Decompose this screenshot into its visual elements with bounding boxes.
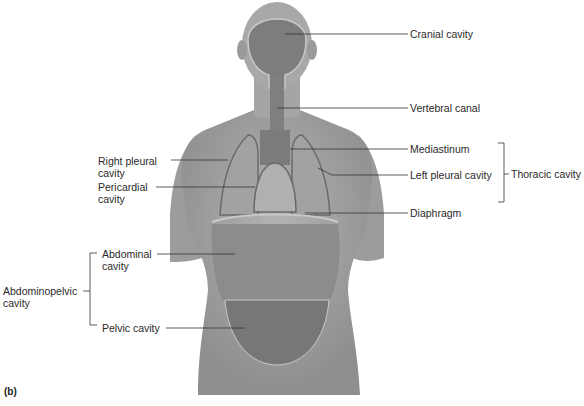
label-cranial-cavity: Cranial cavity (410, 28, 473, 40)
label-diaphragm: Diaphragm (410, 207, 461, 219)
abdominal-region (212, 224, 340, 300)
label-pericardial-cavity: Pericardial cavity (98, 181, 148, 205)
mediastinum-region (260, 130, 290, 165)
label-pelvic-cavity: Pelvic cavity (102, 322, 160, 334)
label-abdominopelvic-cavity: Abdominopelvic cavity (3, 285, 77, 309)
label-mediastinum: Mediastinum (410, 143, 470, 155)
label-abdominal-cavity: Abdominal cavity (102, 248, 152, 272)
vertebral-canal-region (270, 75, 284, 130)
label-right-pleural-cavity: Right pleural cavity (98, 155, 157, 179)
anatomy-illustration (0, 0, 584, 406)
label-thoracic-cavity: Thoracic cavity (511, 168, 581, 180)
label-left-pleural-cavity: Left pleural cavity (410, 169, 492, 181)
label-vertebral-canal: Vertebral canal (410, 102, 480, 114)
panel-label: (b) (4, 386, 17, 397)
